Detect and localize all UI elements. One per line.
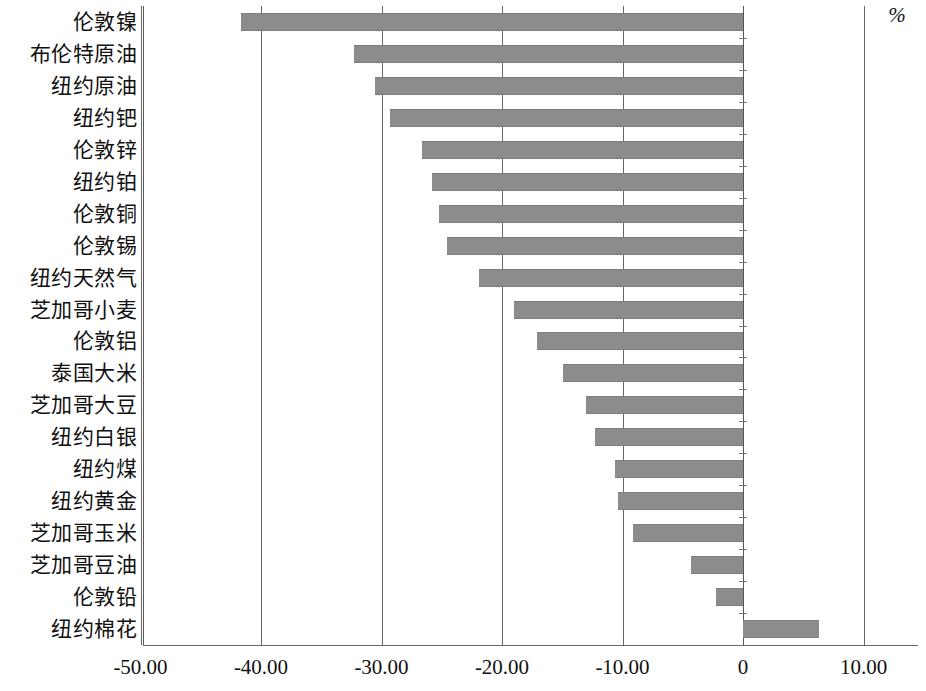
axis-tick-stub (739, 357, 747, 358)
x-tick-label: -50.00 (113, 652, 167, 682)
bar-row: 伦敦铝 (0, 326, 926, 358)
axis-tick-stub (739, 230, 747, 231)
x-tick-label: -30.00 (354, 652, 408, 682)
axis-tick-stub (739, 166, 747, 167)
bar (447, 237, 743, 255)
bar-row: 芝加哥大豆 (0, 389, 926, 421)
category-label: 伦敦铝 (73, 330, 138, 353)
x-tick-label: -10.00 (595, 652, 649, 682)
bar-row: 纽约铂 (0, 166, 926, 198)
bar (743, 620, 819, 638)
bar-row: 泰国大米 (0, 357, 926, 389)
category-label: 纽约黄金 (51, 490, 137, 513)
bar (633, 524, 743, 542)
axis-tick-stub (739, 389, 747, 390)
bar (354, 45, 743, 63)
category-label: 纽约原油 (51, 74, 137, 97)
category-label: 伦敦锡 (73, 234, 138, 257)
bar-row: 纽约棉花 (0, 613, 926, 645)
bar-row: 纽约原油 (0, 70, 926, 102)
bar-row: 伦敦镍 (0, 6, 926, 38)
axis-tick-stub (739, 453, 747, 454)
axis-tick-stub (739, 294, 747, 295)
bar (615, 460, 743, 478)
bar (618, 492, 743, 510)
category-label: 芝加哥小麦 (30, 298, 138, 321)
bar (390, 109, 743, 127)
x-tick-label: -40.00 (234, 652, 288, 682)
bar-row: 纽约天然气 (0, 262, 926, 294)
bar-row: 纽约煤 (0, 453, 926, 485)
bar (422, 141, 743, 159)
x-axis-unit-label: % (888, 0, 906, 30)
bar (563, 364, 743, 382)
bar-row: 纽约黄金 (0, 485, 926, 517)
bar (439, 205, 743, 223)
bar-row: 伦敦锡 (0, 230, 926, 262)
axis-tick-stub (739, 134, 747, 135)
bar-row: 伦敦铅 (0, 581, 926, 613)
axis-tick-stub (739, 549, 747, 550)
axis-tick-stub (739, 70, 747, 71)
category-label: 芝加哥大豆 (30, 394, 138, 417)
category-label: 泰国大米 (51, 362, 137, 385)
bar (514, 301, 743, 319)
axis-tick-stub (739, 38, 747, 39)
axis-tick-stub (739, 262, 747, 263)
axis-tick-stub (739, 326, 747, 327)
x-tick-labels: -50.00-40.00-30.00-20.00-10.00010.00 (0, 652, 926, 688)
bar-row: 纽约钯 (0, 102, 926, 134)
bar-row: 伦敦锌 (0, 134, 926, 166)
category-label: 布伦特原油 (30, 42, 138, 65)
x-tick-label: -20.00 (475, 652, 529, 682)
bar (691, 556, 743, 574)
bar (375, 77, 743, 95)
bar-row: 布伦特原油 (0, 38, 926, 70)
chart-canvas: 伦敦镍布伦特原油纽约原油纽约钯伦敦锌纽约铂伦敦铜伦敦锡纽约天然气芝加哥小麦伦敦铝… (0, 0, 926, 691)
category-label: 纽约钯 (73, 106, 138, 129)
category-label: 纽约白银 (51, 426, 137, 449)
bar-row: 伦敦铜 (0, 198, 926, 230)
category-label: 伦敦铅 (73, 586, 138, 609)
bar (479, 269, 743, 287)
category-label: 伦敦锌 (73, 138, 138, 161)
bar (716, 588, 743, 606)
bar (595, 428, 743, 446)
x-tick-label: 0 (738, 652, 749, 682)
category-label: 芝加哥豆油 (30, 554, 138, 577)
category-label: 伦敦铜 (73, 202, 138, 225)
axis-tick-stub (739, 517, 747, 518)
axis-tick-stub (739, 198, 747, 199)
axis-tick-stub (739, 581, 747, 582)
axis-tick-stub (739, 485, 747, 486)
axis-tick-stub (739, 613, 747, 614)
category-label: 纽约棉花 (51, 618, 137, 641)
bar-row: 芝加哥玉米 (0, 517, 926, 549)
bar-row: 芝加哥豆油 (0, 549, 926, 581)
bar (432, 173, 743, 191)
category-label: 芝加哥玉米 (30, 522, 138, 545)
category-label: 纽约煤 (73, 458, 138, 481)
bar-row: 纽约白银 (0, 421, 926, 453)
bar (537, 332, 743, 350)
x-tick-label: 10.00 (840, 652, 887, 682)
axis-tick-stub (739, 102, 747, 103)
category-label: 纽约天然气 (30, 266, 138, 289)
category-label: 纽约铂 (73, 170, 138, 193)
x-axis-line (143, 645, 918, 646)
axis-tick-stub (739, 421, 747, 422)
bar-row: 芝加哥小麦 (0, 294, 926, 326)
bar (586, 396, 743, 414)
bar-rows: 伦敦镍布伦特原油纽约原油纽约钯伦敦锌纽约铂伦敦铜伦敦锡纽约天然气芝加哥小麦伦敦铝… (0, 0, 926, 645)
category-label: 伦敦镍 (73, 10, 138, 33)
bar (241, 13, 743, 31)
